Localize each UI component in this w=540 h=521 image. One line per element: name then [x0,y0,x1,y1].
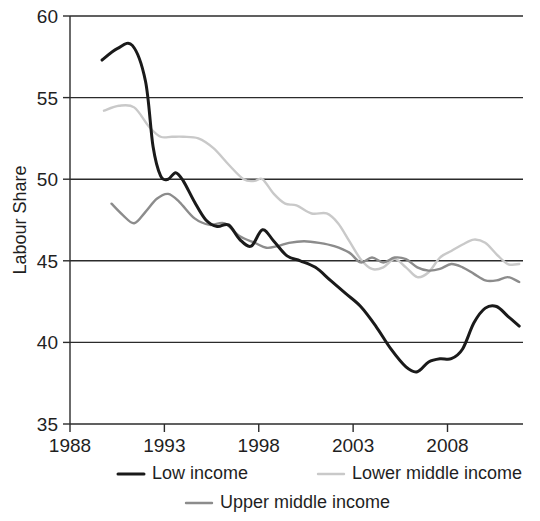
legend-label-low-income: Low income [152,463,248,483]
y-tick-label: 55 [37,88,58,109]
x-tick-label: 2003 [332,435,374,456]
y-tick-label: 35 [37,414,58,435]
x-tick-label: 1998 [238,435,280,456]
x-axis-tick-labels: 19881993199820032008 [49,435,469,456]
x-axis-tickmarks [70,424,448,432]
y-tick-label: 60 [37,6,58,27]
x-tick-label: 2008 [426,435,468,456]
y-axis-tick-labels: 354045505560 [37,6,58,435]
y-axis-title-group: Labour Share [10,165,30,274]
data-series-group [102,43,519,372]
series-line-low-income [102,43,519,372]
series-line-lower-middle-income [104,105,519,277]
chart-legend: Low incomeLower middle incomeUpper middl… [118,463,522,512]
x-tick-label: 1993 [143,435,185,456]
y-tick-label: 40 [37,332,58,353]
x-tick-label: 1988 [49,435,91,456]
chart-figure: Labour Share 354045505560 19881993199820… [0,0,540,521]
y-axis-tickmarks [63,16,70,424]
y-tick-label: 50 [37,169,58,190]
y-tick-label: 45 [37,251,58,272]
labour-share-line-chart: Labour Share 354045505560 19881993199820… [0,0,540,521]
y-axis-title: Labour Share [10,165,30,274]
legend-label-lower-middle-income: Lower middle income [352,463,522,483]
legend-label-upper-middle-income: Upper middle income [220,492,390,512]
